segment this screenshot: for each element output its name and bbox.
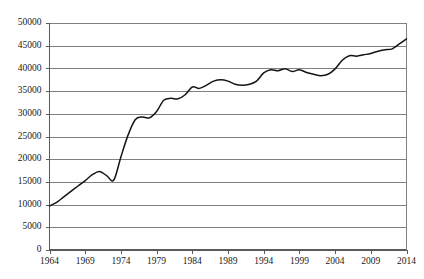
y-axis-tick-label: 35000 xyxy=(18,85,42,95)
y-axis-tick-label: 50000 xyxy=(18,17,42,27)
x-axis-tick-label: 1989 xyxy=(219,256,238,266)
x-axis-tick-labels: 1964196919741979198419891994199920042009… xyxy=(40,256,416,266)
x-axis-tick-label: 1999 xyxy=(290,256,309,266)
x-axis-tick-label: 1969 xyxy=(76,256,95,266)
y-tickmarks-group xyxy=(46,24,50,251)
axes-group xyxy=(50,23,407,250)
y-axis-tick-label: 40000 xyxy=(18,63,42,73)
data-series-group xyxy=(50,39,407,206)
x-axis-tick-label: 2009 xyxy=(361,256,380,266)
gridlines-group xyxy=(50,24,407,228)
y-axis-tick-label: 30000 xyxy=(18,108,42,118)
y-axis-tick-label: 25000 xyxy=(18,131,42,141)
x-axis-tick-label: 2014 xyxy=(397,256,416,266)
chart-canvas: 0500010000150002000025000300003500040000… xyxy=(0,0,424,279)
x-axis-tick-label: 1964 xyxy=(40,256,59,266)
x-axis-tick-label: 1984 xyxy=(183,256,202,266)
x-axis-tick-label: 1974 xyxy=(111,256,130,266)
x-axis-tick-label: 1994 xyxy=(254,256,273,266)
data-series-line xyxy=(50,39,407,206)
y-axis-tick-label: 15000 xyxy=(18,176,42,186)
y-axis-tick-label: 20000 xyxy=(18,153,42,163)
y-axis-tick-label: 0 xyxy=(37,244,42,254)
y-axis-tick-label: 10000 xyxy=(18,199,42,209)
y-axis-tick-label: 45000 xyxy=(18,40,42,50)
y-axis-tick-label: 5000 xyxy=(23,221,42,231)
x-axis-tick-label: 2004 xyxy=(326,256,345,266)
x-axis-tick-label: 1979 xyxy=(147,256,166,266)
x-tickmarks-group xyxy=(51,250,408,254)
y-axis-tick-labels: 0500010000150002000025000300003500040000… xyxy=(18,17,42,254)
line-chart: 0500010000150002000025000300003500040000… xyxy=(0,0,424,279)
